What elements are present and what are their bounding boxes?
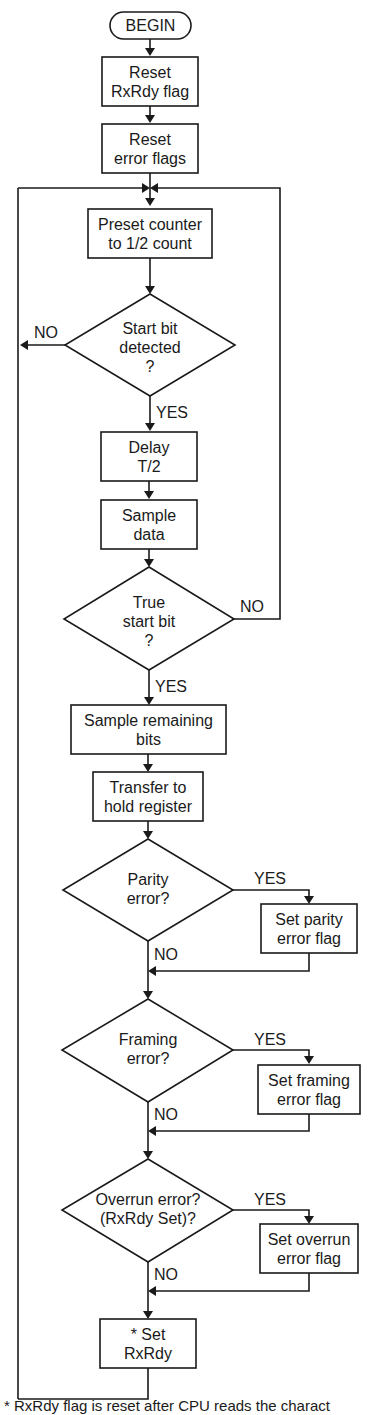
arrow-down-icon (145, 286, 155, 294)
yes-label: YES (254, 870, 286, 887)
node-text: Reset (129, 131, 171, 148)
node-text: ? (146, 358, 155, 375)
preset-counter-box: Preset counter to 1/2 count (88, 209, 212, 258)
node-text: Set parity (275, 911, 343, 928)
set-overrun-flag-box: Set overrun error flag (260, 1224, 358, 1273)
begin-label: BEGIN (126, 17, 176, 34)
node-text: to 1/2 count (108, 235, 192, 252)
node-text: Transfer to (110, 779, 187, 796)
arrow-down-icon (145, 423, 155, 431)
node-text: T/2 (137, 458, 160, 475)
arrow-down-icon (145, 48, 155, 56)
yes-label: YES (254, 1191, 286, 1208)
node-text: bits (136, 731, 161, 748)
node-text: Sample remaining (84, 712, 213, 729)
node-text: Set overrun (268, 1231, 351, 1248)
arrow-left-icon (148, 1286, 156, 1296)
reset-rxrdy-box: Reset RxRdy flag (102, 57, 198, 106)
set-rxrdy-box: * Set RxRdy (100, 1319, 196, 1368)
arrow-down-icon (144, 491, 154, 499)
node-text: error? (127, 890, 170, 907)
node-text: Reset (129, 64, 171, 81)
parity-error-decision: Parity error? (63, 839, 233, 941)
node-text: Delay (129, 439, 170, 456)
footnote-caption: * RxRdy flag is reset after CPU reads th… (4, 1397, 330, 1414)
node-text: error flag (277, 930, 341, 947)
arrow-down-icon (143, 1151, 153, 1159)
arrow-down-icon (304, 1056, 314, 1064)
node-text: hold register (104, 798, 193, 815)
set-framing-flag-box: Set framing error flag (258, 1065, 360, 1114)
node-text: ? (145, 632, 154, 649)
node-text: RxRdy (124, 1345, 172, 1362)
arrow-left-icon (148, 966, 156, 976)
node-text: RxRdy flag (111, 83, 189, 100)
arrow-down-icon (145, 198, 155, 206)
node-text: error flag (277, 1250, 341, 1267)
no-label: NO (154, 946, 178, 963)
arrow-down-icon (144, 697, 154, 705)
yes-label: YES (156, 404, 188, 421)
true-start-bit-decision: True start bit ? (64, 567, 234, 670)
node-text: * Set (131, 1326, 166, 1343)
yes-label: YES (155, 678, 187, 695)
begin-terminator: BEGIN (110, 12, 191, 39)
node-text: Preset counter (98, 216, 203, 233)
node-text: (RxRdy Set)? (100, 1210, 196, 1227)
node-text: start bit (123, 613, 176, 630)
no-label: NO (154, 1266, 178, 1283)
arrow-down-icon (143, 991, 153, 999)
node-text: detected (119, 339, 180, 356)
arrow-down-icon (304, 896, 314, 904)
flowchart-canvas: BEGIN Reset RxRdy flag Reset error flags… (0, 0, 370, 1415)
node-text: error flags (114, 150, 186, 167)
reset-error-flags-box: Reset error flags (102, 124, 198, 173)
node-text: Overrun error? (96, 1191, 201, 1208)
node-text: Framing (119, 1031, 178, 1048)
node-text: error flag (277, 1091, 341, 1108)
start-bit-detected-decision: Start bit detected ? (65, 294, 235, 396)
node-text: error? (127, 1050, 170, 1067)
no-label: NO (154, 1106, 178, 1123)
transfer-hold-register-box: Transfer to hold register (93, 772, 203, 821)
no-label: NO (34, 324, 58, 341)
node-text: data (133, 526, 164, 543)
node-text: Sample (122, 507, 176, 524)
arrow-down-icon (144, 559, 154, 567)
arrow-down-icon (304, 1216, 314, 1224)
overrun-error-decision: Overrun error? (RxRdy Set)? (62, 1159, 233, 1262)
delay-box: Delay T/2 (101, 432, 197, 481)
no-label: NO (240, 598, 264, 615)
sample-remaining-bits-box: Sample remaining bits (71, 705, 226, 754)
node-text: Start bit (122, 320, 178, 337)
arrow-down-icon (145, 115, 155, 123)
arrow-down-icon (143, 831, 153, 839)
node-text: True (133, 594, 165, 611)
arrow-down-icon (143, 764, 153, 772)
yes-label: YES (254, 1031, 286, 1048)
set-parity-flag-box: Set parity error flag (261, 904, 357, 953)
arrow-down-icon (143, 1311, 153, 1319)
arrow-left-icon (20, 340, 28, 350)
arrow-left-icon (148, 1126, 156, 1136)
framing-error-decision: Framing error? (62, 999, 233, 1102)
sample-data-box: Sample data (101, 500, 197, 549)
node-text: Parity (128, 871, 169, 888)
node-text: Set framing (268, 1072, 350, 1089)
